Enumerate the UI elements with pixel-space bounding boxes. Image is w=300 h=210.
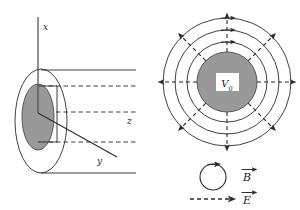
legend-b-field-label: B bbox=[242, 171, 251, 184]
e-field-ray-southeast bbox=[248, 103, 273, 128]
legend-b-field-arrowhead-icon bbox=[208, 164, 218, 165]
legend: B E bbox=[190, 164, 255, 207]
e-field-ray-southwest bbox=[181, 103, 206, 128]
physics-figure: x y z bbox=[0, 0, 300, 210]
e-field-ray-northwest bbox=[181, 36, 206, 61]
right-panel-cross-section: V0 B E bbox=[0, 0, 300, 210]
e-field-ray-northeast bbox=[248, 36, 273, 61]
legend-b-field-circle-icon bbox=[200, 164, 226, 190]
legend-e-field-label: E bbox=[242, 194, 251, 207]
center-voltage-subscript: 0 bbox=[229, 85, 233, 93]
